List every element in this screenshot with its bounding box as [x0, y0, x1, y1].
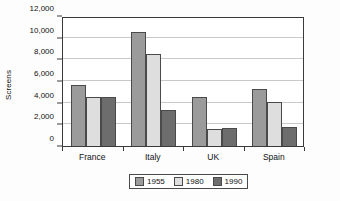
legend-swatch-icon	[174, 177, 183, 186]
y-tick-label: 0	[50, 134, 54, 143]
legend-label: 1955	[147, 177, 165, 186]
x-tick-label: Italy	[145, 152, 161, 162]
bar	[267, 102, 282, 146]
legend-item[interactable]: 1980	[174, 177, 204, 186]
x-tick-label: UK	[207, 152, 219, 162]
bar	[71, 85, 86, 146]
bar-group	[184, 18, 245, 146]
legend-item[interactable]: 1955	[135, 177, 165, 186]
x-tick-mark	[123, 147, 124, 151]
bar	[131, 32, 146, 146]
y-tick-label: 12,000	[30, 4, 54, 13]
legend-label: 1980	[186, 177, 204, 186]
y-tick-label: 4,000	[34, 90, 54, 99]
bars-layer	[63, 18, 303, 146]
bar	[101, 97, 116, 146]
x-tick-mark	[183, 147, 184, 151]
chart-legend: 195519801990	[129, 174, 248, 189]
x-axis-labels: FranceItalyUKSpain	[62, 152, 304, 166]
y-tick-label: 6,000	[34, 69, 54, 78]
bar	[252, 89, 267, 146]
bar	[161, 110, 176, 146]
bar	[146, 54, 161, 146]
plot-area	[62, 17, 304, 147]
bar	[207, 129, 222, 146]
y-tick-label: 2,000	[34, 112, 54, 121]
bar-chart: Screens 02,0004,0006,0008,00010,00012,00…	[0, 0, 340, 201]
bar	[192, 97, 207, 146]
legend-swatch-icon	[135, 177, 144, 186]
legend-item[interactable]: 1990	[213, 177, 243, 186]
bar-group	[124, 18, 185, 146]
bar	[86, 97, 101, 146]
legend-label: 1990	[225, 177, 243, 186]
bar	[222, 128, 237, 146]
x-tick-label: Spain	[263, 152, 285, 162]
y-tick-label: 8,000	[34, 47, 54, 56]
x-tick-mark	[62, 147, 63, 151]
x-tick-mark	[244, 147, 245, 151]
legend-swatch-icon	[213, 177, 222, 186]
bar-group	[63, 18, 124, 146]
x-tick-label: France	[79, 152, 105, 162]
y-axis-ticks: 02,0004,0006,0008,00010,00012,000	[0, 17, 62, 147]
bar-group	[245, 18, 306, 146]
x-tick-mark	[304, 147, 305, 151]
bar	[282, 127, 297, 147]
y-tick-label: 10,000	[30, 25, 54, 34]
